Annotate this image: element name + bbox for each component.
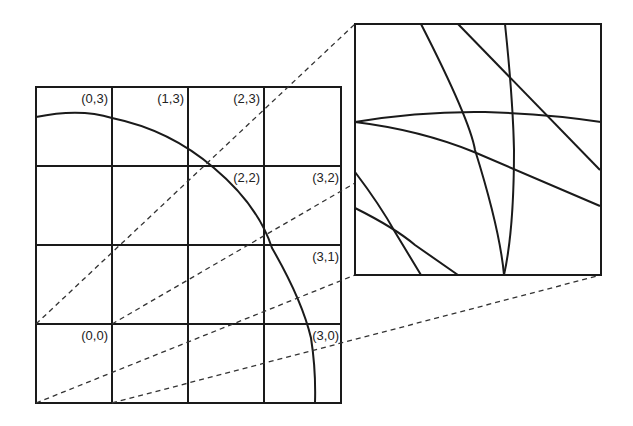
diagram-svg: (0,3) (1,3) (2,3) (2,2) (3,2) (3,1) (0,0… xyxy=(0,0,633,426)
label-3-1: (3,1) xyxy=(312,249,339,264)
label-2-2: (2,2) xyxy=(233,170,260,185)
label-1-3: (1,3) xyxy=(157,91,184,106)
label-3-2: (3,2) xyxy=(312,170,339,185)
zoom-inset xyxy=(355,24,601,275)
diagram-canvas: (0,3) (1,3) (2,3) (2,2) (3,2) (3,1) (0,0… xyxy=(0,0,633,426)
label-0-3: (0,3) xyxy=(81,91,108,106)
label-0-0: (0,0) xyxy=(81,328,108,343)
label-2-3: (2,3) xyxy=(233,91,260,106)
quarter-circle-arc xyxy=(36,113,315,403)
label-3-0: (3,0) xyxy=(312,328,339,343)
